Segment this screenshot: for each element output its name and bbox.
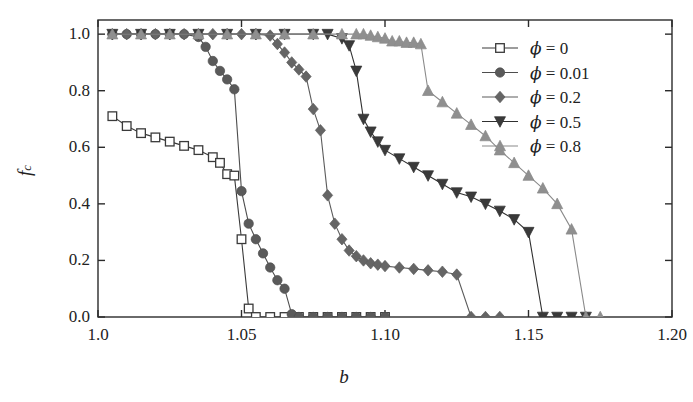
data-point — [451, 188, 462, 199]
data-point — [437, 266, 447, 278]
legend-marker — [496, 44, 505, 53]
data-point — [452, 269, 462, 281]
data-point — [237, 186, 246, 195]
y-tick-label: 0.0 — [40, 307, 90, 327]
x-tick-label: 1.05 — [227, 325, 257, 345]
data-point — [494, 206, 505, 217]
data-point — [408, 162, 419, 173]
data-point — [194, 146, 203, 155]
x-tick-label: 1.15 — [514, 325, 544, 345]
x-axis-title-text: b — [339, 366, 349, 387]
legend-marker — [495, 68, 504, 77]
data-point — [208, 56, 217, 65]
data-point — [394, 262, 404, 274]
data-point — [237, 235, 246, 244]
legend-marker — [495, 91, 505, 103]
data-point — [165, 137, 174, 146]
data-point — [252, 313, 261, 322]
data-point — [451, 108, 462, 119]
x-tick-label: 1.20 — [657, 325, 687, 345]
data-point — [244, 219, 253, 228]
data-point — [351, 66, 362, 77]
chart-figure: b fc 1.01.051.101.151.20 0.00.20.40.60.8… — [0, 0, 693, 402]
legend-entry-label: ϕ = 0.01 — [530, 63, 589, 84]
data-point — [230, 171, 239, 180]
data-point — [280, 284, 289, 293]
y-tick-label: 0.8 — [40, 81, 90, 101]
data-point — [394, 154, 405, 165]
data-point — [180, 142, 189, 151]
data-point — [215, 66, 224, 75]
y-axis-title-subscript: c — [19, 165, 34, 171]
y-tick-label: 1.0 — [40, 24, 90, 44]
legend-entry-label: ϕ = 0 — [530, 38, 568, 59]
data-point — [151, 133, 160, 142]
data-point — [509, 157, 520, 168]
data-point — [222, 75, 231, 84]
data-point — [323, 190, 333, 202]
data-point — [216, 159, 225, 168]
data-point — [380, 312, 389, 321]
data-point — [358, 114, 369, 125]
data-point — [137, 129, 146, 138]
data-point — [201, 42, 210, 51]
data-point — [230, 85, 239, 94]
legend-entry-label: ϕ = 0.5 — [530, 112, 581, 133]
data-point — [337, 233, 347, 245]
data-point — [352, 312, 361, 321]
data-point — [480, 311, 490, 323]
legend-entry-label: ϕ = 0.8 — [530, 136, 581, 157]
data-point — [266, 263, 275, 272]
data-point — [380, 260, 390, 272]
data-point — [294, 312, 303, 321]
y-tick-label: 0.6 — [40, 137, 90, 157]
data-point — [437, 96, 448, 107]
data-point — [308, 103, 318, 115]
x-tick-label: 1.0 — [87, 325, 108, 345]
x-tick-label: 1.10 — [370, 325, 400, 345]
data-point — [537, 183, 548, 194]
data-point — [244, 304, 253, 313]
data-point — [337, 312, 346, 321]
data-point — [315, 125, 325, 137]
x-axis-title: b — [339, 366, 349, 388]
data-point — [251, 235, 260, 244]
y-tick-label: 0.4 — [40, 194, 90, 214]
data-point — [509, 215, 520, 226]
data-point — [480, 130, 491, 141]
y-axis-title-text: f — [14, 171, 35, 176]
data-point — [466, 192, 477, 203]
data-point — [344, 41, 355, 52]
data-point — [437, 179, 448, 190]
series-filled-diamond — [107, 28, 505, 322]
data-point — [423, 171, 434, 182]
data-point — [323, 312, 332, 321]
data-point — [523, 227, 534, 238]
data-point — [366, 312, 375, 321]
data-point — [379, 145, 390, 156]
data-point — [523, 170, 534, 181]
data-point — [566, 224, 577, 235]
data-point — [466, 119, 477, 130]
data-point — [495, 311, 505, 323]
data-point — [122, 122, 131, 131]
legend-entry-label: ϕ = 0.2 — [530, 87, 581, 108]
data-point — [330, 218, 340, 230]
data-point — [365, 127, 376, 138]
data-point — [108, 112, 117, 121]
data-point — [409, 263, 419, 275]
data-point — [480, 199, 491, 210]
data-point — [466, 311, 476, 323]
y-axis-title: fc — [14, 165, 36, 176]
data-point — [423, 85, 434, 96]
y-tick-label: 0.2 — [40, 250, 90, 270]
data-point — [266, 313, 275, 322]
series-open-square — [108, 112, 389, 321]
data-point — [309, 312, 318, 321]
data-point — [273, 276, 282, 285]
data-point — [258, 249, 267, 258]
data-point — [423, 265, 433, 277]
series-filled-down-triangle — [107, 29, 592, 322]
series-filled-circle — [108, 29, 390, 321]
